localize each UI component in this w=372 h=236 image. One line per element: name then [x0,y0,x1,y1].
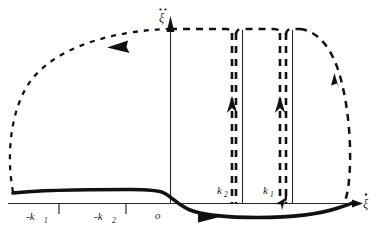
y-axis-label-dot-left [159,8,161,10]
switch-label-k1-text: k [263,184,269,196]
arrowhead-up-on-right-arc [331,73,339,89]
x-axis-label-dot [365,193,367,195]
phase-portrait-figure: ξ ξ o -k 1 -k 2 k 2 k 1 [0,0,372,236]
x-axis-label-group: ξ [363,193,369,211]
origin-label: o [155,209,161,221]
vertical-dashed-segments [227,33,286,210]
switch-label-k2-text: k [217,184,223,196]
dashed-arc-right-descending [300,29,350,203]
x-tick-marks [59,204,126,215]
switch-label-k2: k 2 [217,184,228,199]
tick-label-neg-k1: -k 1 [26,210,48,225]
solid-trajectory-group [13,190,352,223]
y-axis-label-group: ξ [159,8,167,25]
tick-label-neg-k2: -k 2 [94,210,116,225]
tick-label-neg-k1-text: -k [26,210,36,222]
y-axis-label: ξ [159,11,165,25]
labels-group: ξ ξ o -k 1 -k 2 k 2 k 1 [26,8,369,225]
switch-label-k1: k 1 [263,184,274,199]
switch-label-k2-sub: 2 [224,190,228,199]
dashed-arc-top-center [170,29,232,35]
tick-label-neg-k1-sub: 1 [44,216,48,225]
arrowhead-left-on-top-arc [107,41,130,54]
tick-label-neg-k2-sub: 2 [112,216,116,225]
y-axis-label-dot-right [164,8,166,10]
dashed-limit-cycle [10,29,350,203]
axes-group [8,16,363,207]
dashed-arc-left-ascending [10,29,170,192]
tick-label-neg-k2-text: -k [94,210,104,222]
x-axis-label: ξ [363,197,369,211]
arrowhead-up-vertical-k1 [275,96,285,113]
diagram-canvas: ξ ξ o -k 1 -k 2 k 2 k 1 [0,0,372,236]
switch-label-k1-sub: 1 [270,190,274,199]
